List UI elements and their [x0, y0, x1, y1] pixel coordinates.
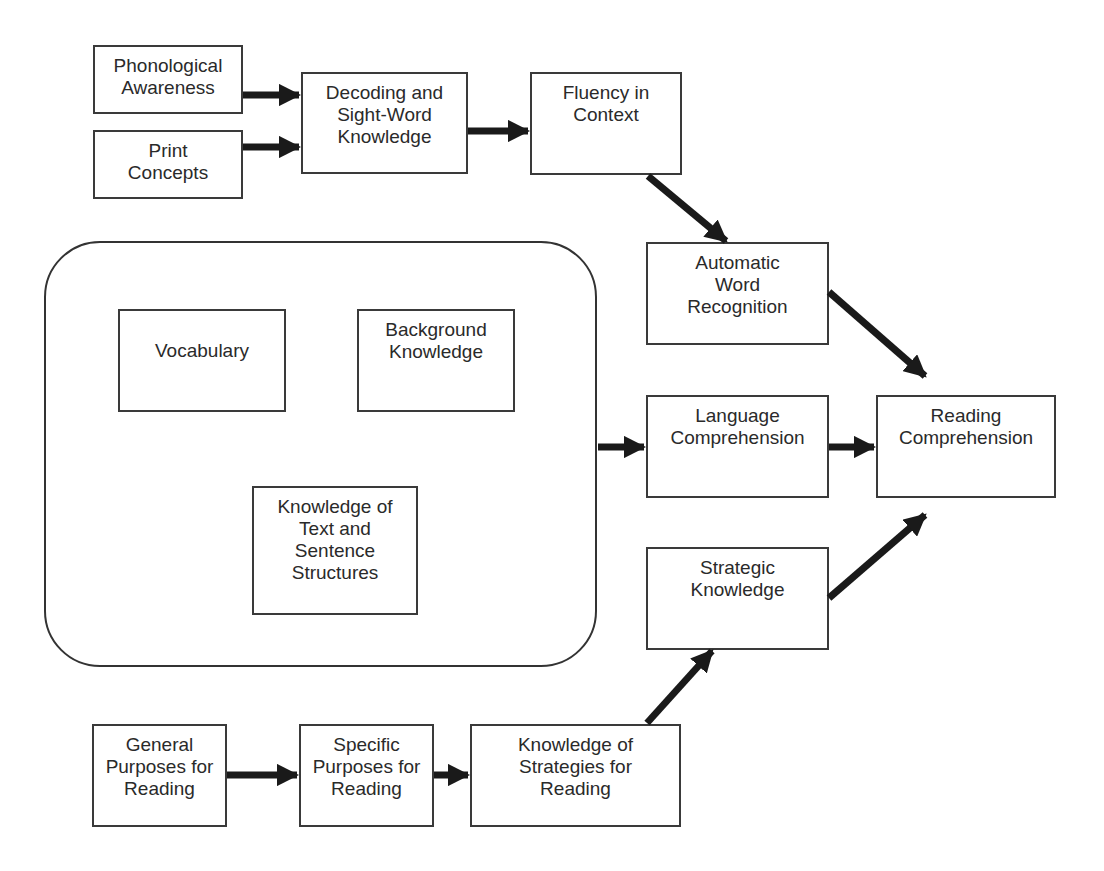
node-label: Specific Purposes for Reading [313, 734, 421, 799]
node-decoding-sight-word-knowledge: Decoding and Sight-Word Knowledge [301, 72, 468, 174]
node-knowledge-of-text-and-sentence-structures: Knowledge of Text and Sentence Structure… [252, 486, 418, 615]
node-label: Knowledge of Strategies for Reading [518, 734, 633, 799]
node-vocabulary: Vocabulary [118, 309, 286, 412]
node-reading-comprehension: Reading Comprehension [876, 395, 1056, 498]
arrow-strategies-to-strategic [647, 651, 712, 723]
node-label: Strategic Knowledge [690, 557, 784, 600]
node-label: Vocabulary [155, 340, 249, 362]
arrow-automatic-to-reading [829, 292, 925, 376]
reading-comprehension-diagram: Phonological Awareness Print Concepts De… [0, 0, 1104, 871]
node-knowledge-of-strategies-for-reading: Knowledge of Strategies for Reading [470, 724, 681, 827]
node-background-knowledge: Background Knowledge [357, 309, 515, 412]
node-label: General Purposes for Reading [106, 734, 214, 799]
node-label: Decoding and Sight-Word Knowledge [326, 82, 443, 147]
arrow-strategic-to-reading [829, 515, 925, 598]
node-label: Reading Comprehension [899, 405, 1033, 448]
node-label: Background Knowledge [385, 319, 486, 362]
node-label: Print Concepts [128, 140, 208, 183]
node-strategic-knowledge: Strategic Knowledge [646, 547, 829, 650]
node-label: Language Comprehension [670, 405, 804, 448]
node-fluency-in-context: Fluency in Context [530, 72, 682, 175]
node-label: Knowledge of Text and Sentence Structure… [277, 496, 392, 583]
arrow-fluency-to-automatic [648, 176, 726, 241]
node-label: Automatic Word Recognition [687, 252, 787, 317]
node-language-comprehension: Language Comprehension [646, 395, 829, 498]
node-specific-purposes-for-reading: Specific Purposes for Reading [299, 724, 434, 827]
node-label: Fluency in Context [563, 82, 650, 125]
node-general-purposes-for-reading: General Purposes for Reading [92, 724, 227, 827]
node-automatic-word-recognition: Automatic Word Recognition [646, 242, 829, 345]
node-phonological-awareness: Phonological Awareness [93, 45, 243, 114]
node-label: Phonological Awareness [114, 55, 223, 98]
node-print-concepts: Print Concepts [93, 130, 243, 199]
